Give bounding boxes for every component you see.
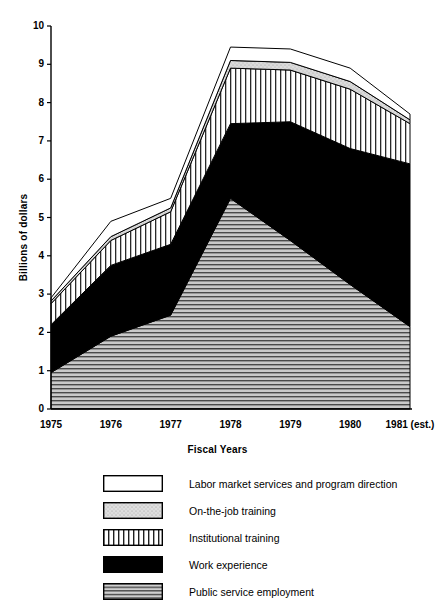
legend-item-4[interactable]: Work experience xyxy=(103,551,435,578)
x-tick-1981: 1981 (est.) xyxy=(365,419,435,430)
solid-black-swatch xyxy=(103,556,163,573)
vertical-lines-swatch xyxy=(103,529,163,546)
light-stipple-swatch xyxy=(103,502,163,519)
x-axis-title: Fiscal Years xyxy=(0,444,435,455)
blank-white-swatch xyxy=(103,475,163,492)
stacked-area-chart-figure: Billions of dollars 109876543210 xyxy=(0,0,435,613)
legend-label: On-the-job training xyxy=(189,505,276,517)
legend-item-2[interactable]: On-the-job training xyxy=(103,497,435,524)
legend-label: Public service employment xyxy=(189,586,314,598)
chart-legend: Labor market services and program direct… xyxy=(103,470,435,605)
legend-item-1[interactable]: Labor market services and program direct… xyxy=(103,470,435,497)
legend-item-3[interactable]: Institutional training xyxy=(103,524,435,551)
legend-label: Labor market services and program direct… xyxy=(189,478,397,490)
horizontal-lines-swatch xyxy=(103,583,163,600)
legend-label: Institutional training xyxy=(189,532,279,544)
legend-item-5[interactable]: Public service employment xyxy=(103,578,435,605)
legend-label: Work experience xyxy=(189,559,268,571)
